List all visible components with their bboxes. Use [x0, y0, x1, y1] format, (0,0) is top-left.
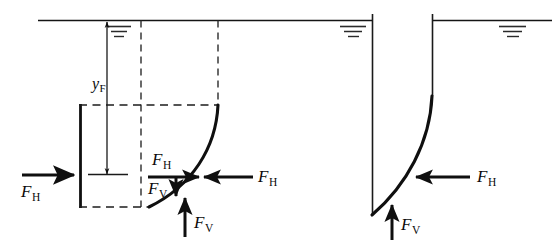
right-panel-right-level-mark-icon: [499, 27, 526, 37]
left-internal-FV-label: FV: [148, 180, 167, 197]
right-FV-label: FV: [401, 216, 420, 233]
left-external-right-FH-label: FH: [258, 168, 277, 185]
left-external-FV-label: FV: [194, 214, 213, 231]
left-external-FH-label: FH: [21, 183, 40, 200]
left-water-level-mark-icon: [107, 27, 131, 37]
depth-dimension-line: [88, 22, 128, 175]
left-internal-FH-label: FH: [152, 151, 171, 168]
right-panel-left-level-mark-icon: [340, 27, 366, 37]
diagram-canvas: [0, 0, 552, 249]
right-FH-label: FH: [477, 168, 496, 185]
right-curved-surface: [372, 96, 432, 215]
depth-label-yF: yF: [92, 76, 105, 92]
figure-root: yF FH FH FV FH FV FH FV: [0, 0, 552, 249]
